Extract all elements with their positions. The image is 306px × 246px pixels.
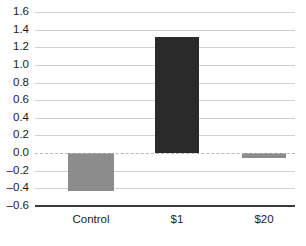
y-tick-label: –0.6 xyxy=(0,200,29,212)
y-tick-label: –0.2 xyxy=(0,165,29,177)
y-tick-label: 0.4 xyxy=(0,112,29,124)
bar-control xyxy=(68,153,114,191)
bar-dollar-1 xyxy=(155,37,199,153)
x-tick-label-dollar-1: $1 xyxy=(171,214,184,226)
y-tick-label: 0.0 xyxy=(0,147,29,159)
y-tick-label: 0.6 xyxy=(0,94,29,106)
y-tick-label: 1.0 xyxy=(0,59,29,71)
x-tick-label-dollar-20: $20 xyxy=(254,214,273,226)
y-tick-label: 1.2 xyxy=(0,42,29,54)
x-axis-line xyxy=(35,205,295,207)
y-tick-label: 1.4 xyxy=(0,24,29,36)
y-tick-label: 0.2 xyxy=(0,130,29,142)
y-tick-label: 1.6 xyxy=(0,6,29,18)
plot-area xyxy=(35,12,295,206)
x-tick-label-control: Control xyxy=(72,214,109,226)
zero-reference-line xyxy=(35,153,295,154)
gridline xyxy=(35,12,295,13)
bar-chart: 1.6 1.4 1.2 1.0 0.8 0.6 0.4 0.2 0.0 –0.2… xyxy=(0,0,306,246)
gridline xyxy=(35,30,295,31)
y-tick-label: 0.8 xyxy=(0,77,29,89)
y-tick-label: –0.4 xyxy=(0,183,29,195)
